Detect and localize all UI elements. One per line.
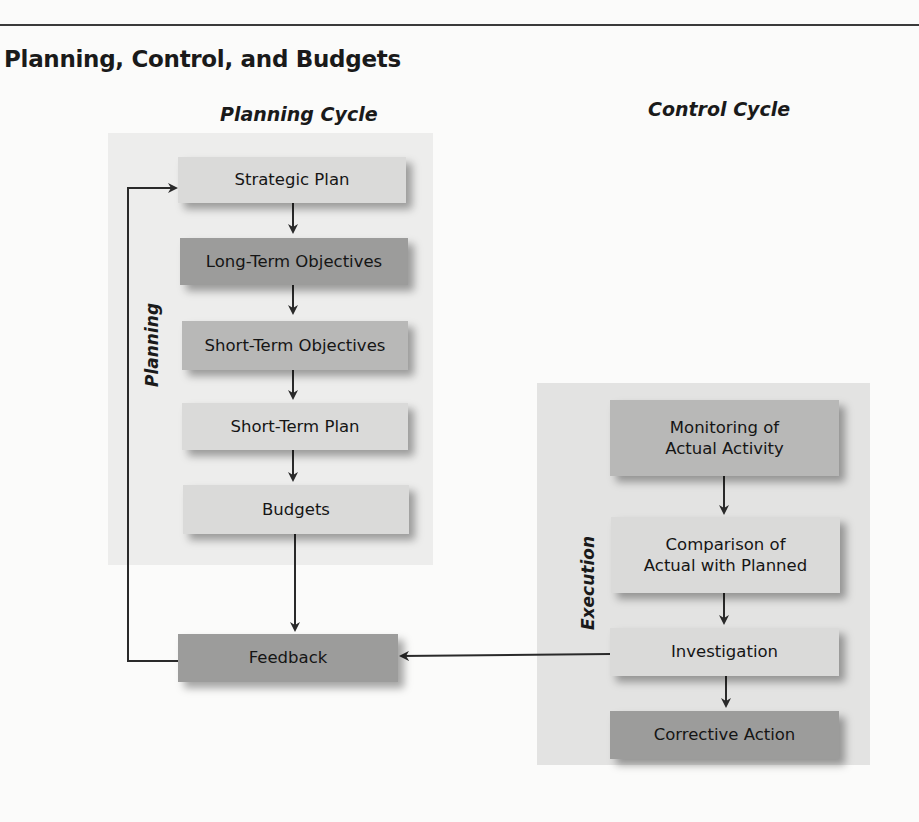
step-label-line2: Actual with Planned xyxy=(644,555,807,576)
step-feedback: Feedback xyxy=(178,634,398,682)
step-budgets: Budgets xyxy=(183,485,409,534)
figure-title: Planning, Control, and Budgets xyxy=(4,46,401,72)
planning-cycle-heading: Planning Cycle xyxy=(220,103,378,125)
step-strategic-plan: Strategic Plan xyxy=(178,157,406,203)
step-long-term-objectives: Long-Term Objectives xyxy=(180,238,408,285)
top-rule xyxy=(0,24,919,26)
step-label: Budgets xyxy=(262,499,330,520)
step-monitoring-actual-activity: Monitoring of Actual Activity xyxy=(610,400,839,476)
step-short-term-plan: Short-Term Plan xyxy=(182,403,408,450)
step-investigation: Investigation xyxy=(610,628,839,676)
step-label: Short-Term Objectives xyxy=(205,335,386,356)
planning-side-label: Planning xyxy=(142,303,162,387)
step-label-line1: Comparison of xyxy=(666,534,786,555)
step-label: Investigation xyxy=(671,641,778,662)
step-short-term-objectives: Short-Term Objectives xyxy=(182,321,408,370)
step-label: Feedback xyxy=(249,647,328,668)
step-label: Short-Term Plan xyxy=(230,416,359,437)
step-label: Strategic Plan xyxy=(235,169,350,190)
step-label: Long-Term Objectives xyxy=(206,251,382,272)
step-label: Corrective Action xyxy=(654,724,796,745)
step-corrective-action: Corrective Action xyxy=(610,711,839,759)
step-label-line1: Monitoring of xyxy=(670,417,779,438)
step-comparison-actual-planned: Comparison of Actual with Planned xyxy=(611,517,840,593)
execution-side-label: Execution xyxy=(578,536,598,630)
control-cycle-heading: Control Cycle xyxy=(648,98,790,120)
step-label-line2: Actual Activity xyxy=(665,438,784,459)
